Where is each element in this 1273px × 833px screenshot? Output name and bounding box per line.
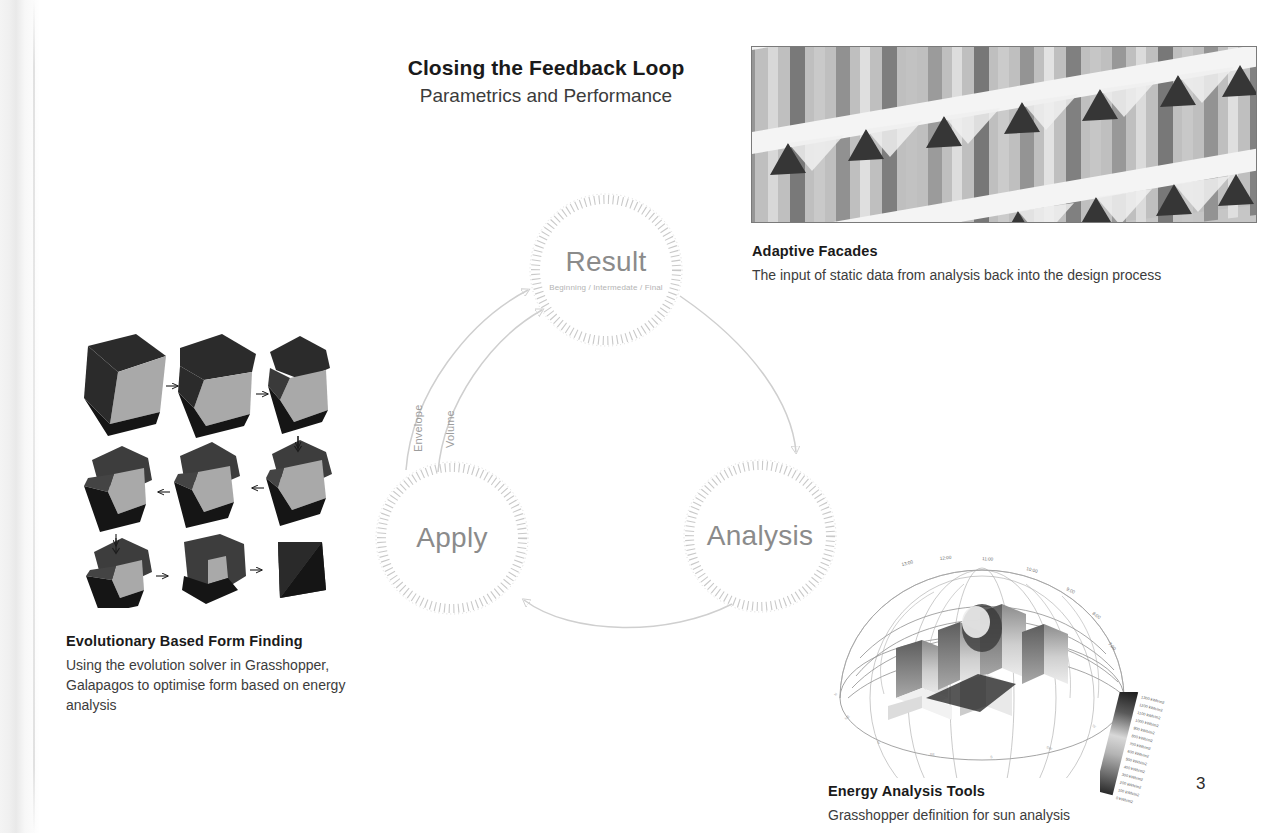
svg-text:13:00: 13:00 (901, 559, 914, 567)
form-step-1 (84, 334, 166, 436)
caption-adaptive-facades-title: Adaptive Facades (752, 242, 1252, 261)
svg-text:10:00: 10:00 (1026, 566, 1039, 574)
svg-text:7:00: 7:00 (1107, 641, 1117, 651)
form-step-9 (278, 542, 326, 598)
caption-evolutionary-form-finding-body: Using the evolution solver in Grasshoppe… (66, 656, 386, 716)
adaptive-facade-image (751, 46, 1257, 223)
svg-text:11:00: 11:00 (982, 556, 994, 562)
svg-text:8:00: 8:00 (1091, 611, 1102, 621)
svg-text:SE: SE (930, 752, 936, 757)
caption-evolutionary-form-finding: Evolutionary Based Form Finding Using th… (66, 632, 386, 715)
svg-text:9:00: 9:00 (1066, 586, 1077, 595)
caption-energy-analysis-tools-title: Energy Analysis Tools (828, 782, 1228, 801)
arrow-apply-to-result-envelope (406, 290, 528, 470)
sun-path-analysis-image: 13:00 12:00 11:00 10:00 9:00 8:00 7:00 N… (830, 548, 1140, 778)
page-title-block: Closing the Feedback Loop Parametrics an… (336, 56, 756, 108)
presentation-slide: Closing the Feedback Loop Parametrics an… (0, 0, 1273, 833)
svg-text:E: E (877, 740, 881, 745)
page-title: Closing the Feedback Loop (336, 56, 756, 81)
page-fold-line (33, 0, 35, 833)
cycle-node-analysis-label: Analysis (707, 522, 814, 550)
caption-energy-analysis-tools-body: Grasshopper definition for sun analysis (828, 806, 1228, 826)
form-step-2 (178, 334, 256, 438)
cycle-node-result[interactable]: Result Beginning / Intermedate / Final (528, 192, 684, 348)
form-step-6 (84, 446, 152, 532)
page-number: 3 (1196, 774, 1205, 794)
evolutionary-form-grid-image (74, 328, 336, 608)
sun-path-dome-graphic: 13:00 12:00 11:00 10:00 9:00 8:00 7:00 N… (830, 548, 1140, 778)
form-step-5 (174, 442, 240, 528)
cycle-node-analysis[interactable]: Analysis (682, 458, 838, 614)
svg-text:N: N (833, 692, 838, 697)
cycle-node-apply-label: Apply (416, 524, 488, 552)
cycle-node-apply[interactable]: Apply (374, 460, 530, 616)
form-step-3 (268, 336, 330, 434)
form-step-8 (182, 534, 246, 604)
caption-adaptive-facades: Adaptive Facades The input of static dat… (752, 242, 1252, 286)
caption-adaptive-facades-body: The input of static data from analysis b… (752, 266, 1252, 286)
form-step-4 (266, 440, 332, 526)
flow-label-volume: Volume (444, 410, 456, 448)
svg-text:W: W (1091, 724, 1097, 730)
svg-text:12:00: 12:00 (940, 555, 952, 561)
flow-label-envelope: Envelope (412, 405, 424, 452)
svg-text:S: S (990, 755, 994, 759)
polyhedra-sequence-graphic (74, 328, 336, 608)
cycle-node-result-sublabel: Beginning / Intermedate / Final (549, 283, 663, 292)
caption-evolutionary-form-finding-title: Evolutionary Based Form Finding (66, 632, 386, 651)
facade-photo-graphic (752, 47, 1256, 222)
cycle-node-result-label: Result (565, 248, 646, 276)
caption-energy-analysis-tools: Energy Analysis Tools Grasshopper defini… (828, 782, 1228, 826)
arrow-result-to-analysis (680, 296, 796, 452)
page-subtitle: Parametrics and Performance (336, 84, 756, 109)
arrow-analysis-to-apply (524, 600, 732, 628)
